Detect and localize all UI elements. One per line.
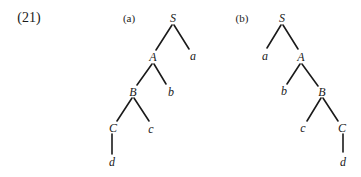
edge-a-A-b — [154, 64, 166, 84]
tree-a-node-S: S — [170, 12, 176, 24]
tree-a-node-B: B — [129, 86, 136, 98]
tree-a-leaf-b: b — [168, 86, 174, 98]
edge-b-S-A — [283, 25, 298, 49]
tree-b-node-A: A — [297, 51, 304, 63]
edge-a-B-c — [134, 98, 149, 121]
edge-b-A-B — [302, 64, 318, 86]
tree-a-leaf-c: c — [148, 123, 153, 135]
edge-b-S-a — [267, 25, 281, 48]
edge-a-S-A — [156, 25, 172, 50]
edge-b-B-c — [307, 98, 321, 121]
tree-b-node-C: C — [338, 122, 346, 134]
edge-a-S-a — [174, 25, 189, 49]
tree-a-leaf-d: d — [109, 156, 115, 168]
tree-a-node-C: C — [109, 122, 117, 134]
tree-b-node-S: S — [279, 12, 285, 24]
tree-a-leaf-a: a — [190, 50, 196, 62]
tree-b-leaf-d: d — [340, 156, 346, 168]
tree-a-node-A: A — [149, 51, 156, 63]
edge-b-B-C — [323, 98, 338, 121]
tree-b-leaf-b: b — [281, 85, 287, 97]
edge-b-A-b — [287, 64, 300, 84]
tree-b-leaf-a: a — [262, 50, 268, 62]
tree-b-label: (b) — [236, 13, 249, 24]
tree-edges — [0, 0, 361, 177]
tree-b-node-B: B — [318, 86, 325, 98]
syntax-tree-figure: (21) (a) S a A b B C c d (b) S a A b B c… — [0, 0, 361, 177]
example-number: (21) — [17, 11, 40, 25]
edge-a-B-C — [117, 98, 132, 121]
edge-a-A-B — [137, 64, 152, 85]
tree-a-label: (a) — [123, 13, 135, 24]
tree-b-leaf-c: c — [300, 122, 305, 134]
